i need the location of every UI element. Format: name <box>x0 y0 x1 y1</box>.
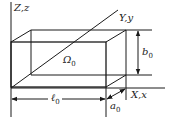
height-label: b0 <box>142 47 153 60</box>
width-label: a0 <box>110 101 120 114</box>
box-diagram <box>0 0 169 120</box>
y-axis-label: Y,y <box>119 13 133 23</box>
width-dimension-arrow <box>107 89 125 99</box>
y-axis <box>11 10 118 88</box>
length-label: ℓ0 <box>51 93 60 106</box>
front-face <box>11 42 106 87</box>
z-axis-label: Z,z <box>14 3 29 13</box>
region-label: Ω0 <box>63 55 76 68</box>
x-axis-label: X,x <box>131 90 147 100</box>
